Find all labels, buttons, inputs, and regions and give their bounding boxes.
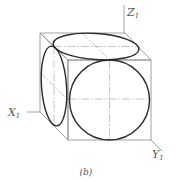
figure-caption: (b) xyxy=(80,167,93,177)
inscribed-circles xyxy=(39,31,150,140)
z-axis-label: Z1 xyxy=(126,6,139,20)
x-axis-label: X1 xyxy=(7,106,20,120)
axes xyxy=(27,5,162,151)
y-axis-label: Y1 xyxy=(152,148,164,162)
isometric-cube-diagram: Z1 X1 Y1 (b) xyxy=(0,0,177,181)
